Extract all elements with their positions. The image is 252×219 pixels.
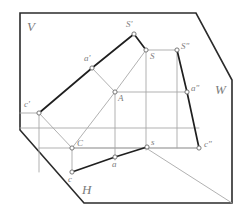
point-label-c-axo: C <box>77 139 83 148</box>
point-label-s-side: S" <box>181 42 189 51</box>
point-label-a-side: a" <box>191 84 199 93</box>
projection-drawing <box>0 0 252 219</box>
edge-aside-cside <box>187 92 199 148</box>
point-label-s-axo: S <box>150 52 155 61</box>
point-marker-s-front <box>132 32 136 36</box>
point-label-c-side: c" <box>204 140 212 149</box>
point-label-c-front: c' <box>24 100 30 109</box>
point-label-a-horiz: a <box>112 160 117 169</box>
point-marker-a-side <box>185 90 189 94</box>
plane-label-v: V <box>27 20 35 33</box>
point-label-a-axo: A <box>118 94 124 103</box>
plane-label-h: H <box>82 183 91 196</box>
axis-oy-diagonal <box>146 148 232 203</box>
proj-afront-aaxo <box>92 68 115 92</box>
figure-canvas: VWHS'SS"a'Aa"c'Cc"sac <box>0 0 252 219</box>
point-marker-c-front <box>37 111 41 115</box>
point-marker-a-front <box>90 66 94 70</box>
point-marker-c-axo <box>70 146 74 150</box>
point-markers <box>37 32 201 174</box>
point-label-s-front: S' <box>126 20 132 29</box>
point-marker-a-axo <box>113 90 117 94</box>
proj-aaxo-saxo <box>115 50 146 92</box>
point-marker-s-side <box>175 48 179 52</box>
edge-ahorz-shorz <box>115 147 147 157</box>
point-label-s-horiz: s <box>151 138 155 147</box>
construction-lines <box>20 50 232 203</box>
edge-sfront-saxo <box>134 34 146 50</box>
proj-cfront-caxo <box>39 113 72 148</box>
edge-chorz-ahorz <box>72 157 115 172</box>
edge-sside-aside <box>177 50 187 92</box>
point-marker-s-horiz <box>145 145 149 149</box>
plane-label-w: W <box>215 83 226 96</box>
edge-afront-sfront <box>92 34 134 68</box>
point-marker-c-side <box>197 146 201 150</box>
point-label-c-horiz: c <box>68 175 72 184</box>
point-label-a-front: a' <box>84 54 90 63</box>
edge-cfront-afront <box>39 68 92 113</box>
object-edges <box>39 34 199 172</box>
point-marker-s-axo <box>144 48 148 52</box>
